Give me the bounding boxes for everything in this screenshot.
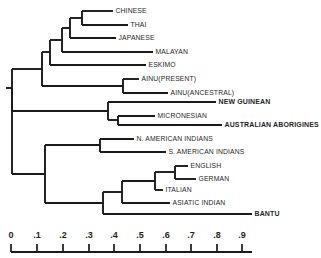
axis-tick-label: 0 bbox=[8, 230, 13, 240]
leaf-label: ENGLISH bbox=[191, 162, 222, 170]
leaf-label: BANTU bbox=[254, 209, 279, 218]
axis-tick-label: .7 bbox=[187, 230, 195, 240]
leaf-label: AUSTRALIAN ABORIGINES bbox=[225, 120, 319, 129]
axis-tick-label: .4 bbox=[110, 230, 118, 240]
leaf-labels-group: CHINESETHAIJAPANESEMALAYANESKIMOAINU(PRE… bbox=[115, 7, 318, 218]
leaf-label: ESKIMO bbox=[149, 61, 177, 69]
dendrogram-figure: CHINESETHAIJAPANESEMALAYANESKIMOAINU(PRE… bbox=[0, 0, 321, 258]
leaf-label: MALAYAN bbox=[156, 48, 188, 56]
axis-tick-label: .3 bbox=[85, 230, 93, 240]
leaf-label: GERMAN bbox=[199, 175, 230, 183]
leaf-label: JAPANESE bbox=[118, 34, 154, 42]
axis-tick-label: .9 bbox=[238, 230, 246, 240]
leaf-label: S. AMERICAN INDIANS bbox=[169, 148, 245, 156]
leaf-label: ITALIAN bbox=[166, 186, 192, 194]
leaf-label: AINU(PRESENT) bbox=[142, 75, 197, 83]
distance-axis-group: 0.1.2.3.4.5.6.7.8.9 bbox=[8, 230, 252, 252]
dendrogram-canvas: CHINESETHAIJAPANESEMALAYANESKIMOAINU(PRE… bbox=[0, 0, 321, 258]
leaf-label: NEW GUINEAN bbox=[219, 97, 271, 106]
leaf-label: MICRONESIAN bbox=[158, 112, 208, 120]
leaf-label: N. AMERICAN INDIANS bbox=[137, 135, 213, 143]
leaf-label: ASIATIC INDIAN bbox=[173, 199, 226, 207]
axis-tick-label: .6 bbox=[162, 230, 170, 240]
axis-tick-label: .5 bbox=[136, 230, 144, 240]
axis-tick-label: .2 bbox=[59, 230, 67, 240]
axis-tick-label: .1 bbox=[33, 230, 41, 240]
axis-tick-label: .8 bbox=[213, 230, 221, 240]
leaf-label: THAI bbox=[131, 21, 147, 29]
leaf-label: CHINESE bbox=[115, 7, 146, 15]
